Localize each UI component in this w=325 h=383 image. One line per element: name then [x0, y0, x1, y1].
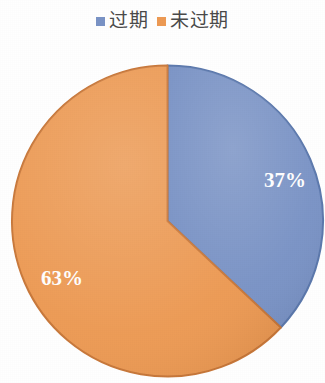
pie-chart-figure: 过期 未过期: [0, 0, 325, 383]
pie-plot-area: 37% 63%: [0, 0, 325, 383]
legend-label-expired: 过期: [109, 9, 148, 31]
legend-swatch-expired-icon: [96, 17, 105, 26]
legend-item-not-expired[interactable]: 未过期: [157, 9, 229, 31]
legend-item-expired[interactable]: 过期: [96, 9, 148, 31]
pie-label-expired: 37%: [264, 168, 306, 192]
pie-label-not-expired: 63%: [41, 266, 83, 290]
pie-svg: 37% 63%: [0, 0, 325, 383]
chart-legend: 过期 未过期: [0, 9, 325, 31]
legend-label-not-expired: 未过期: [170, 9, 229, 31]
legend-swatch-not-expired-icon: [157, 17, 166, 26]
